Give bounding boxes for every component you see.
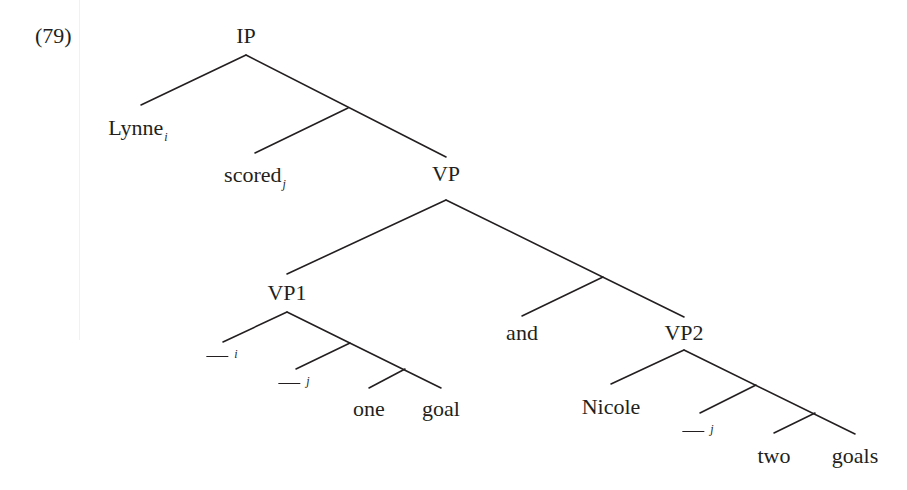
branch-vp1-right (287, 312, 441, 388)
trace-gap-line (278, 383, 300, 385)
trace-index-j: j (710, 422, 713, 436)
branch-vp2-nicole (611, 350, 684, 384)
node-two-label: two (758, 443, 791, 468)
node-lynne-label: Lynne (108, 115, 163, 140)
node-vp1: VP1 (267, 282, 306, 304)
node-nicole-label: Nicole (582, 394, 641, 419)
branch-ip-lynne (141, 55, 246, 105)
branch-vp1-trace-j (296, 343, 350, 369)
index-j: j (283, 177, 286, 191)
trace-gap-line (206, 356, 228, 358)
branch-vp-right (446, 200, 684, 317)
trace-index-i: i (234, 347, 237, 361)
node-and-label: and (506, 320, 538, 345)
index-i: i (164, 130, 167, 144)
branch-scored (255, 108, 348, 153)
branch-and (522, 277, 603, 316)
node-lynne: Lynnei (108, 117, 167, 143)
node-one-label: one (353, 396, 385, 421)
node-scored: scoredj (224, 164, 286, 190)
node-one: one (353, 398, 385, 420)
node-vp: VP (432, 163, 460, 185)
node-vp1-label: VP1 (267, 280, 306, 305)
branch-vp-vp1 (287, 200, 446, 274)
node-goal-label: goal (422, 396, 460, 421)
node-goal: goal (422, 398, 460, 420)
branch-vp1-trace-i (223, 312, 287, 342)
node-two: two (758, 445, 791, 467)
node-vp2-label: VP2 (664, 320, 703, 345)
branch-vp2-trace-j (700, 385, 756, 413)
node-scored-label: scored (224, 162, 281, 187)
node-vp-label: VP (432, 161, 460, 186)
branch-one (369, 369, 405, 388)
node-goals: goals (832, 445, 878, 467)
branch-ip-right (246, 55, 446, 157)
trace-gap-line (682, 431, 704, 433)
trace-index-j: j (306, 374, 309, 388)
node-and: and (506, 322, 538, 344)
branch-two (774, 413, 815, 433)
node-ip-label: IP (236, 23, 256, 48)
node-ip: IP (236, 25, 256, 47)
trace-j-vp2: j (682, 422, 713, 438)
node-vp2: VP2 (664, 322, 703, 344)
trace-i-vp1: i (206, 347, 237, 363)
node-nicole: Nicole (582, 396, 641, 418)
node-goals-label: goals (832, 443, 878, 468)
trace-j-vp1: j (278, 374, 309, 390)
